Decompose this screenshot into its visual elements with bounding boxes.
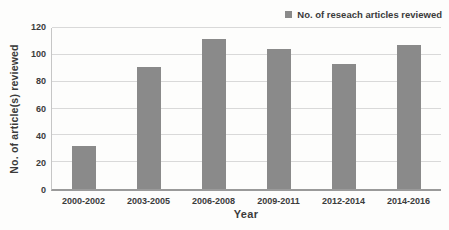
- x-tick-label: 2006-2008: [181, 196, 246, 206]
- bar-2014-2016: [397, 45, 421, 189]
- bar-slot: [246, 28, 311, 189]
- bar-2006-2008: [202, 39, 226, 189]
- y-tick-label: 60: [36, 104, 46, 113]
- y-axis-tick-labels: 020406080100120: [0, 27, 46, 190]
- y-tick-label: 120: [31, 23, 46, 32]
- x-tick-label: 2014-2016: [376, 196, 441, 206]
- x-tick-label: 2009-2011: [246, 196, 311, 206]
- bar-chart: No. of reseach articles reviewed No. of …: [0, 0, 449, 230]
- bar-slot: [376, 28, 441, 189]
- x-tick-label: 2012-2014: [311, 196, 376, 206]
- bar-slot: [117, 28, 182, 189]
- bar-2009-2011: [267, 49, 291, 189]
- bar-slot: [311, 28, 376, 189]
- x-tick-label: 2003-2005: [116, 196, 181, 206]
- bar-slot: [182, 28, 247, 189]
- bar-2000-2002: [72, 146, 96, 189]
- y-tick-label: 20: [36, 158, 46, 167]
- y-tick-label: 40: [36, 131, 46, 140]
- y-tick-label: 0: [41, 186, 46, 195]
- y-tick-label: 80: [36, 77, 46, 86]
- legend: No. of reseach articles reviewed: [285, 9, 442, 20]
- legend-marker-icon: [285, 11, 292, 18]
- plot-area: [51, 28, 441, 191]
- bar-2003-2005: [137, 67, 161, 189]
- bar-2012-2014: [332, 64, 356, 189]
- y-tick-label: 100: [31, 50, 46, 59]
- x-axis-title: Year: [51, 208, 441, 220]
- legend-label: No. of reseach articles reviewed: [297, 9, 442, 20]
- x-axis-tick-labels: 2000-20022003-20052006-20082009-20112012…: [51, 196, 441, 206]
- x-tick-label: 2000-2002: [51, 196, 116, 206]
- bar-slot: [52, 28, 117, 189]
